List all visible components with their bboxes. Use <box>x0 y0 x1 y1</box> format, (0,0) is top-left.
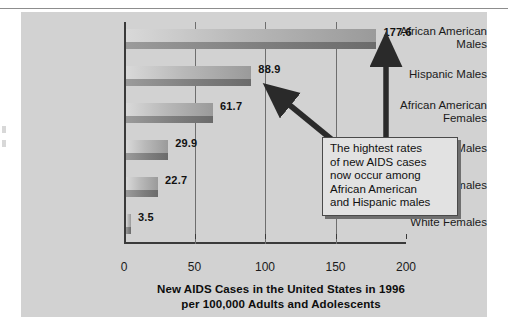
bar-shadow <box>126 79 251 86</box>
annotation-line-2: now occur among <box>330 169 451 183</box>
x-tick-label: 100 <box>245 260 285 274</box>
annotation-line-4: and Hispanic males <box>330 196 451 210</box>
bar-shadow <box>126 116 213 123</box>
tick-mark-0 <box>124 234 125 239</box>
annotation-callout: The hightest rates of new AIDS cases now… <box>322 137 458 216</box>
bar-row: 177.6 <box>126 23 408 57</box>
tick-mark-100 <box>265 234 266 239</box>
bar-shadow <box>126 42 376 49</box>
bar-shadow <box>126 190 158 197</box>
x-tick-label: 150 <box>316 260 356 274</box>
annotation-line-3: African American <box>330 183 451 197</box>
annotation-line-1: of new AIDS cases <box>330 156 451 170</box>
x-tick-label: 0 <box>104 260 144 274</box>
bar-row: 88.9 <box>126 60 408 94</box>
chart-title-line-1: New AIDS Cases in the United States in 1… <box>81 282 481 297</box>
bar <box>126 66 251 79</box>
bar <box>126 29 376 42</box>
tick-mark-50 <box>195 234 196 239</box>
bar-value-label: 88.9 <box>258 63 280 75</box>
bar-value-label: 177.6 <box>383 26 412 38</box>
tick-mark-150 <box>336 234 337 239</box>
page-edge-mark <box>2 140 6 147</box>
bar-value-label: 29.9 <box>175 137 197 149</box>
x-tick-label: 50 <box>175 260 215 274</box>
page-edge-mark <box>2 126 6 133</box>
bar <box>126 177 158 190</box>
chart-title: New AIDS Cases in the United States in 1… <box>81 282 481 312</box>
bar-value-label: 61.7 <box>220 100 242 112</box>
figure-root: African AmericanMalesHispanic MalesAfric… <box>0 0 508 335</box>
tick-mark-200 <box>406 234 407 239</box>
bar-value-label: 22.7 <box>165 174 187 186</box>
bar-value-label: 3.5 <box>138 211 154 223</box>
bar-shadow <box>126 227 131 234</box>
x-tick-label: 200 <box>386 260 426 274</box>
page-rule <box>0 8 508 9</box>
bar <box>126 140 168 153</box>
bar-shadow <box>126 153 168 160</box>
chart-title-line-2: per 100,000 Adults and Adolescents <box>81 297 481 312</box>
annotation-line-0: The hightest rates <box>330 142 451 156</box>
bar <box>126 214 131 227</box>
bar-row: 61.7 <box>126 97 408 131</box>
bar <box>126 103 213 116</box>
